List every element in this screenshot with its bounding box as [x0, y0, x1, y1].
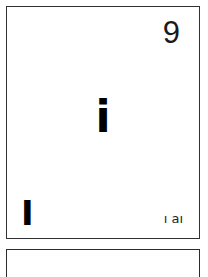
element-symbol: i — [7, 95, 199, 139]
bottom-right-caption: ı aı — [164, 212, 183, 225]
bottom-left-mark: I — [21, 196, 34, 230]
atomic-number: 9 — [163, 17, 180, 48]
element-cell[interactable]: 9 i I ı aı — [6, 6, 200, 239]
next-element-cell[interactable] — [6, 249, 200, 277]
